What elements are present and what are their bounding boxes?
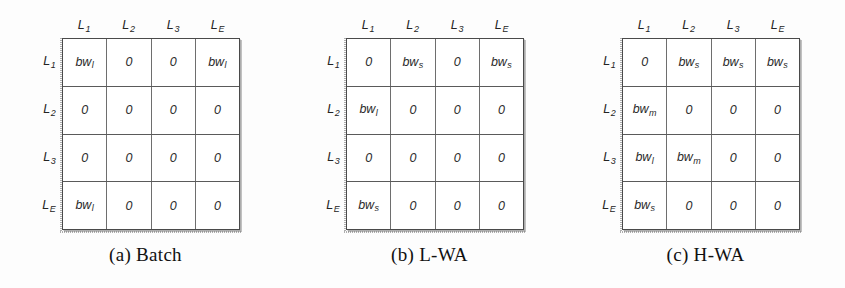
cell-value-bandwidth: bwl — [359, 102, 377, 118]
matrix-grid: bwl00bwl00000000bwl000 — [62, 38, 240, 230]
cell-value-zero: 0 — [170, 151, 177, 165]
matrix-a: L1L2L3LEL1L2L3LEbwl00bwl00000000bwl000 — [30, 14, 262, 232]
row-header-LE: LE — [30, 182, 60, 230]
axis-label: L1 — [327, 54, 340, 70]
column-header-LE: LE — [480, 14, 525, 36]
matrix-cell: 0 — [107, 135, 151, 182]
cell-value-zero: 0 — [498, 151, 505, 165]
cell-value-zero: 0 — [498, 199, 505, 213]
matrix-cell: 0 — [436, 87, 480, 134]
cell-value-bandwidth: bwm — [633, 102, 657, 118]
cell-value-zero: 0 — [685, 103, 692, 117]
matrix-cell: 0 — [436, 182, 480, 229]
axis-label: L2 — [682, 14, 695, 40]
cell-value-zero: 0 — [774, 103, 781, 117]
cell-value-zero: 0 — [125, 103, 132, 117]
axis-label: LE — [211, 14, 225, 40]
row-header-L3: L3 — [590, 134, 620, 182]
matrix-cell: 0 — [347, 39, 391, 86]
cell-value-zero: 0 — [170, 103, 177, 117]
axis-label: L2 — [603, 102, 616, 118]
matrix-cell: 0 — [667, 87, 711, 134]
matrix-cell: 0 — [107, 39, 151, 86]
axis-label: L1 — [78, 14, 91, 40]
row-header-L1: L1 — [590, 38, 620, 86]
cell-value-bandwidth: bwm — [677, 150, 701, 166]
matrix-cell: 0 — [667, 182, 711, 229]
cell-value-bandwidth: bwl — [208, 55, 226, 71]
matrix-cell: bws — [756, 39, 799, 86]
row-header-LE: LE — [314, 182, 344, 230]
panel-caption-b: (b) L-WA — [292, 244, 567, 266]
matrix-cell: 0 — [480, 87, 523, 134]
panel-caption-a: (a) Batch — [8, 244, 283, 266]
matrix-row: bwm000 — [623, 87, 799, 135]
matrix-b: L1L2L3LEL1L2L3LE0bws0bwsbwl0000000bws000 — [314, 14, 546, 232]
row-header-L2: L2 — [30, 86, 60, 134]
axis-label: LE — [771, 14, 785, 40]
cell-value-zero: 0 — [170, 199, 177, 213]
axis-label: L1 — [43, 54, 56, 70]
cell-value-bandwidth: bws — [634, 198, 655, 214]
matrix-c: L1L2L3LEL1L2L3LE0bwsbwsbwsbwm000bwlbwm00… — [590, 14, 822, 232]
matrix-cell: 0 — [756, 87, 799, 134]
matrix-row: 0bwsbwsbws — [623, 39, 799, 87]
column-header-L2: L2 — [667, 14, 712, 36]
axis-label: L3 — [727, 14, 740, 40]
panel-caption-c: (c) H-WA — [568, 244, 843, 266]
column-header-row: L1L2L3LE — [622, 14, 800, 36]
axis-label: L2 — [122, 14, 135, 40]
cell-value-zero: 0 — [125, 55, 132, 69]
matrix-cell: bws — [623, 182, 667, 229]
matrix-cell: bwl — [63, 182, 107, 229]
matrix-cell: 0 — [756, 182, 799, 229]
matrix-cell: 0 — [152, 182, 196, 229]
axis-label: L2 — [327, 102, 340, 118]
column-header-row: L1L2L3LE — [62, 14, 240, 36]
cell-value-bandwidth: bwl — [75, 198, 93, 214]
cell-value-bandwidth: bws — [767, 55, 788, 71]
matrix-cell: bws — [667, 39, 711, 86]
cell-value-zero: 0 — [81, 151, 88, 165]
column-header-L3: L3 — [151, 14, 196, 36]
matrix-cell: bws — [347, 182, 391, 229]
cell-value-bandwidth: bwl — [635, 150, 653, 166]
matrix-cell: 0 — [391, 135, 435, 182]
axis-label: L1 — [362, 14, 375, 40]
axis-label: L3 — [43, 150, 56, 166]
cell-value-bandwidth: bws — [358, 198, 379, 214]
matrix-cell: 0 — [712, 87, 756, 134]
matrix-grid: 0bws0bwsbwl0000000bws000 — [346, 38, 524, 230]
axis-label: L3 — [327, 150, 340, 166]
matrix-panel-c: L1L2L3LEL1L2L3LE0bwsbwsbwsbwm000bwlbwm00… — [568, 0, 843, 288]
cell-value-zero: 0 — [409, 199, 416, 213]
matrix-cell: 0 — [391, 182, 435, 229]
matrix-cell: bwm — [623, 87, 667, 134]
row-header-L3: L3 — [314, 134, 344, 182]
matrix-row: bwl000 — [347, 87, 523, 135]
axis-label: LE — [602, 198, 616, 214]
matrix-cell: 0 — [712, 135, 756, 182]
column-header-L2: L2 — [107, 14, 152, 36]
column-header-L3: L3 — [711, 14, 756, 36]
row-header-L1: L1 — [30, 38, 60, 86]
row-header-LE: LE — [590, 182, 620, 230]
matrix-cell: 0 — [152, 39, 196, 86]
axis-label: L3 — [451, 14, 464, 40]
matrix-row: bwlbwm00 — [623, 135, 799, 183]
matrix-cell: bwl — [347, 87, 391, 134]
cell-value-bandwidth: bws — [491, 55, 512, 71]
cell-value-zero: 0 — [214, 103, 221, 117]
matrix-cell: 0 — [480, 135, 523, 182]
matrix-cell: 0 — [152, 87, 196, 134]
cell-value-zero: 0 — [498, 103, 505, 117]
matrix-row: bwl000 — [63, 182, 239, 229]
column-header-L2: L2 — [391, 14, 436, 36]
cell-value-zero: 0 — [214, 151, 221, 165]
matrix-cell: bwm — [667, 135, 711, 182]
axis-label: L2 — [43, 102, 56, 118]
axis-label: L2 — [406, 14, 419, 40]
column-header-L1: L1 — [62, 14, 107, 36]
cell-value-bandwidth: bws — [678, 55, 699, 71]
axis-label: LE — [42, 198, 56, 214]
